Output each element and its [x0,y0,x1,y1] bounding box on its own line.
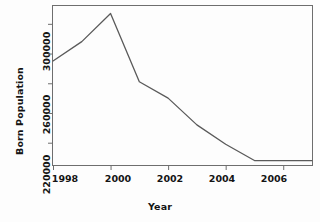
plot-area [0,0,320,222]
data-series-line [53,13,312,160]
chart-container: Born Population Year 220000 260000 30000… [0,0,320,222]
plot-frame [53,6,313,166]
